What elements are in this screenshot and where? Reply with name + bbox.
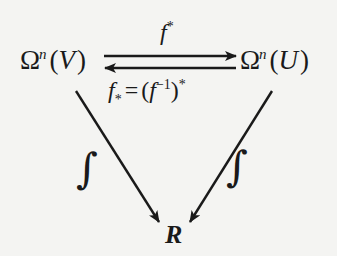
label-bottom-sub: * bbox=[115, 92, 122, 107]
node-left-sup: n bbox=[39, 46, 47, 62]
label-f-pullback: f* bbox=[160, 20, 174, 44]
node-left-base: Ω bbox=[20, 45, 40, 75]
label-f-pushforward: f*=(f−1)* bbox=[108, 78, 186, 107]
node-right-close: ) bbox=[300, 45, 309, 75]
node-left-open: ( bbox=[50, 45, 59, 75]
integral-icon-left: ∫ bbox=[76, 148, 98, 190]
node-reals: R bbox=[165, 222, 182, 248]
label-bottom-eq: = bbox=[125, 77, 139, 103]
label-bottom-outer-sup: * bbox=[179, 77, 186, 92]
node-omega-n-u: Ωn(U) bbox=[240, 47, 309, 74]
node-right-base: Ω bbox=[240, 45, 260, 75]
integral-icon-right: ∫ bbox=[226, 146, 248, 188]
label-bottom-base: f bbox=[108, 77, 115, 103]
node-right-sup: n bbox=[259, 46, 267, 62]
label-top-sup: * bbox=[167, 19, 174, 34]
label-top-base: f bbox=[160, 19, 167, 45]
node-right-arg: U bbox=[279, 45, 299, 75]
label-bottom-rhs-base: f bbox=[149, 77, 156, 103]
node-right-open: ( bbox=[270, 45, 279, 75]
label-bottom-close: ) bbox=[171, 77, 179, 103]
node-left-arg: V bbox=[59, 45, 76, 75]
node-omega-n-v: Ωn(V) bbox=[20, 47, 86, 74]
commutative-diagram: Ωn(V) Ωn(U) f* f*=(f−1)* ∫ ∫ R bbox=[0, 0, 337, 256]
node-left-close: ) bbox=[77, 45, 86, 75]
label-bottom-rhs-sup: −1 bbox=[156, 77, 171, 92]
